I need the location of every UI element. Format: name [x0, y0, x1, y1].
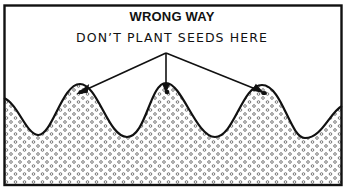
soil-area [4, 80, 342, 186]
arrow-left [83, 53, 166, 91]
arrow-right [166, 53, 258, 90]
diagram-caption: DON’T PLANT SEEDS HERE [0, 30, 344, 45]
seed-right [261, 91, 267, 95]
diagram-title: WRONG WAY [0, 9, 344, 24]
seed-left [78, 90, 83, 94]
diagram-canvas [0, 0, 344, 188]
seed-middle [165, 90, 170, 94]
wrong-way-planting-diagram: WRONG WAY DON’T PLANT SEEDS HERE [0, 0, 344, 188]
